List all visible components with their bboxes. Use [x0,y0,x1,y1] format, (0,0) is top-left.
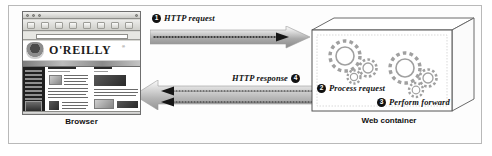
text-line [94,89,138,90]
callout-label: HTTP response [232,73,288,83]
callout-label: HTTP request [164,13,215,23]
callout-perform-forward: 3 Perform forward [377,97,450,107]
browser-address-bar[interactable] [23,32,140,40]
sidebar-link[interactable] [25,82,42,84]
http-response-arrow [134,80,316,110]
text-line [48,97,88,98]
gear-hub [396,59,414,77]
article-image [94,75,126,86]
text-line [62,108,86,109]
gear-icon [330,41,360,71]
back-icon[interactable] [27,22,35,29]
gear-hub [423,73,433,83]
address-input[interactable] [36,34,128,39]
gear-icon [420,70,437,87]
text-line [64,75,88,76]
oreilly-tarsier-logo [26,42,44,59]
window-close-icon[interactable] [26,14,29,17]
sidebar-link[interactable] [25,98,42,100]
browser-titlebar [23,12,140,19]
sidebar-link[interactable] [25,90,42,92]
sidebar-link[interactable] [25,70,42,72]
article-column-left [47,67,90,115]
text-line [94,71,108,72]
callout-label: Process request [329,83,385,93]
print-icon[interactable] [97,22,105,29]
text-line [64,84,88,85]
text-line [94,95,136,96]
reload-icon[interactable] [55,22,63,29]
gear-hub [412,86,420,94]
gear-hub [336,47,354,65]
trademark-symbol: ® [122,44,125,49]
sidebar-link[interactable] [25,86,42,88]
article-image [49,75,62,85]
diagram-figure: O'REILLY ® [0,0,492,156]
gear-icon [409,83,423,97]
text-line [48,71,70,72]
browser-window: O'REILLY ® [22,11,141,115]
browser-figure: O'REILLY ® [22,11,141,129]
forward-icon[interactable] [41,22,49,29]
article-image [117,101,138,108]
gear-icon [390,53,420,83]
site-banner: O'REILLY ® [23,41,141,61]
text-line [62,102,88,103]
home-icon[interactable] [69,22,77,29]
text-line [64,81,86,82]
sidebar-link[interactable] [25,94,42,96]
window-menu-icon[interactable] [135,14,138,17]
gear-hub [350,73,357,80]
article-column-right [93,67,140,115]
search-icon[interactable] [83,22,91,29]
stop-icon[interactable] [111,22,119,29]
article-image [94,99,114,109]
site-sidebar [23,67,45,115]
callout-process-request: 2 Process request [317,83,385,93]
gear-icon [348,71,361,84]
text-line [62,105,88,106]
web-container-figure: Web container [303,17,475,129]
gear-cluster-forward [383,47,445,103]
browser-toolbar [23,20,140,31]
browser-page-content: O'REILLY ® [23,41,141,115]
article-heading [48,67,76,69]
gear-hub [363,63,373,73]
cube-top-face [312,18,474,30]
text-line [48,94,86,95]
article-heading [94,67,112,69]
cube-right-face [452,18,474,111]
text-line [48,88,88,89]
sidebar-link[interactable] [25,78,42,80]
callout-http-request: 1 HTTP request [152,13,215,23]
callout-http-response: 4 HTTP response [232,73,300,83]
window-minimize-icon[interactable] [32,14,35,17]
window-zoom-icon[interactable] [38,14,41,17]
step-number-badge: 1 [152,14,161,23]
browser-caption: Browser [22,117,141,126]
text-line [94,114,134,115]
http-request-arrow [150,26,310,50]
step-number-badge: 4 [291,74,300,83]
browser-status-bar [23,111,141,115]
step-number-badge: 3 [377,98,386,107]
callout-label: Perform forward [389,97,450,107]
text-line [64,78,88,79]
gear-icon [360,60,377,77]
text-line [48,91,88,92]
bookmark-icon[interactable] [125,22,133,29]
article-image [49,101,59,110]
web-container-caption: Web container [303,116,475,125]
step-number-badge: 2 [317,84,326,93]
site-wordmark: O'REILLY [49,43,111,57]
sidebar-link[interactable] [25,74,42,76]
text-line [94,92,138,93]
